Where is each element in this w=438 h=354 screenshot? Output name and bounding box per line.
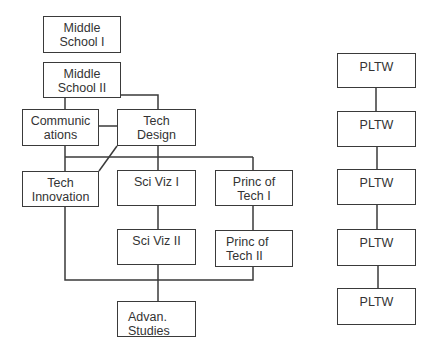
node-label: Middle School I: [44, 21, 120, 49]
node-label: PLTW: [338, 60, 415, 74]
node-label: Advan. Studies: [128, 310, 195, 338]
node-pltw-1: PLTW: [337, 53, 416, 88]
pathway-diagram: Middle School I Middle School II Communi…: [0, 0, 438, 354]
node-label: Tech Innovation: [23, 176, 98, 204]
node-communications: Communic ations: [22, 109, 99, 146]
node-label: Tech Design: [118, 114, 195, 142]
node-princ-of-tech-2: Princ of Tech II: [215, 230, 293, 267]
node-label: Sci Viz I: [118, 175, 195, 189]
node-tech-innovation: Tech Innovation: [22, 171, 99, 207]
node-princ-of-tech-1: Princ of Tech I: [215, 170, 293, 206]
node-label: PLTW: [338, 118, 415, 132]
node-pltw-5: PLTW: [337, 288, 416, 325]
node-pltw-4: PLTW: [337, 229, 416, 266]
edge-ms2-techdesign: [121, 95, 158, 109]
node-advanced-studies: Advan. Studies: [117, 301, 196, 337]
edge-techdesign-techinnov: [99, 146, 117, 171]
node-label: Princ of Tech I: [216, 175, 292, 203]
node-label: PLTW: [338, 236, 415, 250]
node-tech-design: Tech Design: [117, 109, 196, 146]
node-pltw-3: PLTW: [337, 169, 416, 205]
node-middle-school-2: Middle School II: [43, 62, 121, 98]
node-sci-viz-1: Sci Viz I: [117, 170, 196, 206]
node-label: PLTW: [338, 176, 415, 190]
node-label: PLTW: [338, 295, 415, 309]
node-sci-viz-2: Sci Viz II: [117, 229, 196, 265]
node-middle-school-1: Middle School I: [43, 16, 121, 53]
node-label: Middle School II: [44, 67, 120, 95]
node-label: Sci Viz II: [118, 234, 195, 248]
node-pltw-2: PLTW: [337, 111, 416, 147]
node-label: Princ of Tech II: [226, 235, 292, 263]
node-label: Communic ations: [23, 114, 98, 142]
